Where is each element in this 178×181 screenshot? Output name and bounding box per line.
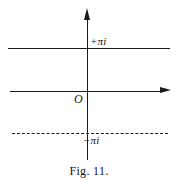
real-axis-arrow-icon	[160, 87, 171, 93]
figure-container: +πi O −πi Fig. 11.	[0, 0, 178, 181]
imaginary-axis-arrow-icon	[84, 8, 90, 20]
lower-boundary-label: −πi	[83, 134, 100, 146]
figure-caption: Fig. 11.	[0, 164, 178, 179]
origin-label: O	[74, 92, 83, 107]
upper-boundary-line	[8, 48, 170, 49]
upper-boundary-label: +πi	[90, 35, 107, 47]
